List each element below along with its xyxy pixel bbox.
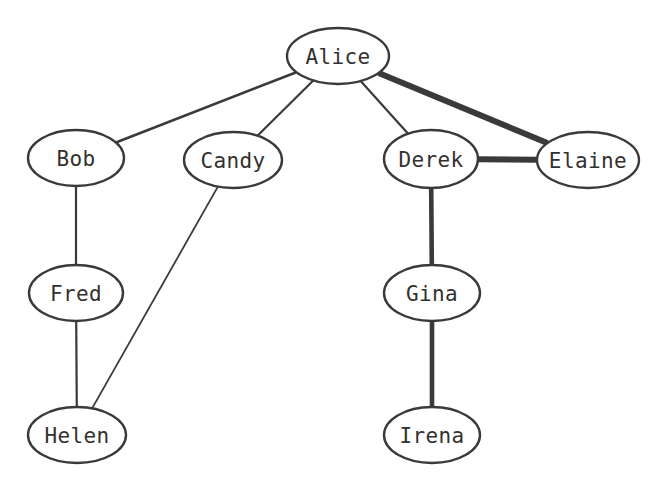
graph-canvas: AliceBobCandyDerekElaineFredGinaHelenIre… (0, 0, 657, 485)
node-helen[interactable]: Helen (28, 407, 126, 463)
edges-layer (76, 72, 547, 408)
nodes-layer: AliceBobCandyDerekElaineFredGinaHelenIre… (28, 28, 639, 463)
node-label-derek: Derek (398, 148, 463, 172)
edge-fred-helen[interactable] (76, 321, 77, 407)
edge-derek-gina[interactable] (431, 188, 432, 265)
edge-alice-derek[interactable] (361, 81, 408, 134)
edge-alice-candy[interactable] (257, 80, 313, 135)
node-alice[interactable]: Alice (287, 28, 389, 84)
node-label-bob: Bob (56, 147, 95, 171)
node-label-candy: Candy (200, 149, 265, 173)
node-irena[interactable]: Irena (384, 407, 480, 463)
node-bob[interactable]: Bob (28, 130, 124, 186)
node-label-irena: Irena (399, 424, 464, 448)
node-gina[interactable]: Gina (384, 265, 480, 321)
node-label-fred: Fred (50, 282, 102, 306)
edge-alice-bob[interactable] (116, 72, 296, 142)
node-candy[interactable]: Candy (184, 132, 282, 188)
node-derek[interactable]: Derek (384, 130, 478, 188)
node-fred[interactable]: Fred (29, 265, 123, 321)
edge-alice-elaine[interactable] (379, 73, 548, 143)
node-label-alice: Alice (305, 45, 370, 69)
node-label-helen: Helen (44, 424, 109, 448)
node-elaine[interactable]: Elaine (537, 132, 639, 188)
node-label-gina: Gina (406, 282, 458, 306)
network-graph: AliceBobCandyDerekElaineFredGinaHelenIre… (0, 0, 657, 485)
node-label-elaine: Elaine (549, 149, 627, 173)
